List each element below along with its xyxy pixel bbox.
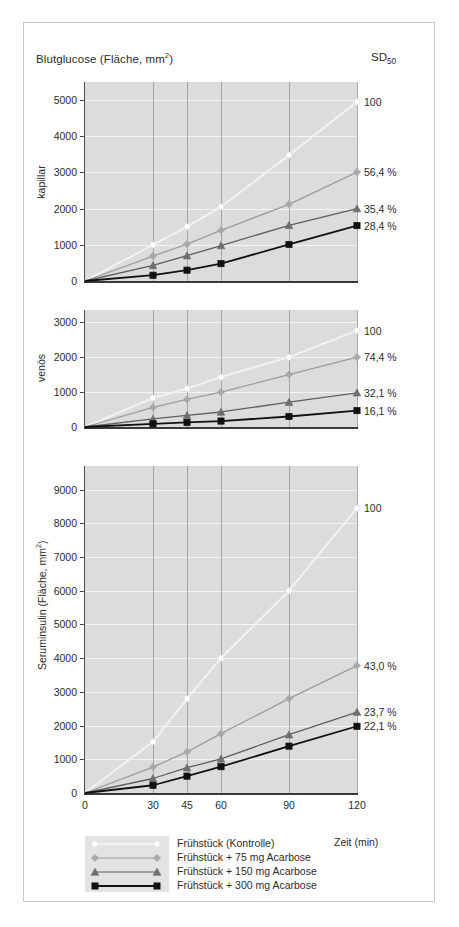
data-point: [354, 723, 360, 729]
data-point: [354, 505, 360, 511]
data-point: [285, 695, 292, 702]
series-layer: [0, 0, 459, 927]
legend-marker: [91, 854, 98, 861]
data-point: [353, 662, 360, 669]
legend-item-label: Frühstück + 75 mg Acarbose: [177, 851, 311, 863]
data-point: [218, 655, 224, 661]
data-point: [150, 739, 156, 745]
data-point: [286, 588, 292, 594]
data-point: [286, 743, 292, 749]
data-point: [353, 708, 361, 715]
data-point: [218, 764, 224, 770]
x-axis-title: Zeit (min): [334, 836, 378, 848]
legend-item-label: Frühstück + 300 mg Acarbose: [177, 879, 317, 891]
data-point: [183, 748, 190, 755]
legend-marker: [154, 883, 160, 889]
legend-marker: [92, 883, 98, 889]
series-line: [85, 508, 357, 793]
legend-marker: [153, 854, 160, 861]
data-point: [184, 696, 190, 702]
data-point: [150, 782, 156, 788]
legend: Frühstück (Kontrolle)Frühstück + 75 mg A…: [85, 836, 357, 892]
data-point: [184, 773, 190, 779]
legend-marker: [92, 841, 98, 847]
legend-item-label: Frühstück (Kontrolle): [177, 837, 274, 849]
series-line: [85, 712, 357, 793]
data-point: [217, 730, 224, 737]
series-line: [85, 666, 357, 793]
legend-marker: [154, 841, 160, 847]
data-point: [149, 763, 156, 770]
legend-item-label: Frühstück + 150 mg Acarbose: [177, 865, 317, 877]
legend-markers: [85, 836, 169, 892]
